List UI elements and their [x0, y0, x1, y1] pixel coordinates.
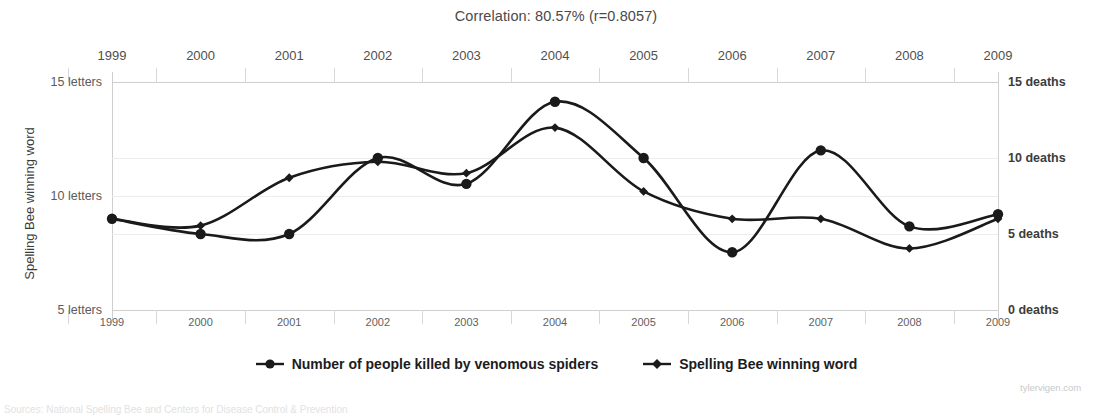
y-tick-label-left: 10 letters [6, 189, 102, 203]
x-tick-label-bottom: 2004 [543, 316, 567, 328]
x-tick-label-top: 1999 [98, 48, 127, 63]
x-tick [688, 68, 689, 82]
data-point-circle[interactable] [904, 221, 914, 231]
x-tick [245, 68, 246, 82]
x-tick [777, 68, 778, 82]
source-note: Sources: National Spelling Bee and Cente… [4, 404, 348, 415]
y-axis-left-title: Spelling Bee winning word [22, 89, 37, 319]
watermark: tylervigen.com [1020, 382, 1081, 393]
plot-area [112, 82, 998, 310]
data-point-diamond[interactable] [551, 123, 560, 132]
x-tick-label-top: 2004 [541, 48, 570, 63]
data-point-circle[interactable] [284, 229, 294, 239]
x-tick-label-bottom: 2001 [277, 316, 301, 328]
data-point-circle[interactable] [461, 179, 471, 189]
legend-item[interactable]: Number of people killed by venomous spid… [255, 356, 599, 372]
chart-legend: Number of people killed by venomous spid… [0, 356, 1112, 372]
x-tick [511, 310, 512, 324]
data-point-circle[interactable] [638, 153, 648, 163]
x-tick-label-top: 2003 [452, 48, 481, 63]
data-point-diamond[interactable] [728, 214, 737, 223]
x-tick-label-bottom: 1999 [100, 316, 124, 328]
legend-label: Spelling Bee winning word [679, 356, 857, 372]
data-point-diamond[interactable] [196, 221, 205, 230]
x-tick-label-top: 2000 [186, 48, 215, 63]
x-tick-label-top: 2007 [806, 48, 835, 63]
data-point-diamond[interactable] [285, 173, 294, 182]
x-tick [245, 310, 246, 324]
series-line-2 [112, 127, 998, 248]
x-tick [334, 310, 335, 324]
x-tick-label-bottom: 2008 [897, 316, 921, 328]
y-tick-label-left: 15 letters [6, 75, 102, 89]
x-tick-label-top: 2009 [984, 48, 1013, 63]
axis-line-right [998, 72, 999, 320]
x-tick [954, 68, 955, 82]
legend-diamond-icon [642, 357, 672, 371]
legend-item[interactable]: Spelling Bee winning word [642, 356, 857, 372]
x-tick [954, 310, 955, 324]
x-tick-label-top: 2008 [895, 48, 924, 63]
x-tick [599, 68, 600, 82]
x-tick-label-bottom: 2000 [188, 316, 212, 328]
data-point-circle[interactable] [195, 229, 205, 239]
x-tick [156, 310, 157, 324]
legend-circle-icon [255, 357, 285, 371]
legend-label: Number of people killed by venomous spid… [292, 356, 599, 372]
x-tick [777, 310, 778, 324]
data-point-diamond[interactable] [816, 214, 825, 223]
data-point-diamond[interactable] [905, 244, 914, 253]
x-tick [156, 68, 157, 82]
y-tick-label-right: 0 deaths [1008, 303, 1104, 317]
x-tick-label-bottom: 2007 [809, 316, 833, 328]
y-tick-label-right: 15 deaths [1008, 75, 1104, 89]
x-tick-label-top: 2005 [629, 48, 658, 63]
x-tick-label-top: 2001 [275, 48, 304, 63]
x-tick [334, 68, 335, 82]
x-tick [422, 310, 423, 324]
x-tick [599, 310, 600, 324]
chart-title: Correlation: 80.57% (r=0.8057) [0, 8, 1112, 24]
x-tick-label-bottom: 2009 [986, 316, 1010, 328]
data-point-circle[interactable] [816, 145, 826, 155]
y-tick-label-right: 5 deaths [1008, 227, 1104, 241]
x-tick-label-bottom: 2003 [454, 316, 478, 328]
x-tick [511, 68, 512, 82]
data-point-circle[interactable] [727, 247, 737, 257]
x-tick-label-top: 2006 [718, 48, 747, 63]
correlation-chart: Correlation: 80.57% (r=0.8057) 15 letter… [0, 0, 1112, 415]
x-tick-label-bottom: 2002 [366, 316, 390, 328]
y-tick-label-left: 5 letters [6, 303, 102, 317]
series-lines [112, 82, 998, 310]
x-tick-label-bottom: 2006 [720, 316, 744, 328]
x-tick-label-top: 2002 [363, 48, 392, 63]
x-tick [422, 68, 423, 82]
x-tick [865, 68, 866, 82]
x-tick [865, 310, 866, 324]
y-tick-label-right: 10 deaths [1008, 151, 1104, 165]
x-tick-label-bottom: 2005 [631, 316, 655, 328]
data-point-circle[interactable] [550, 97, 560, 107]
x-tick [688, 310, 689, 324]
data-point-diamond[interactable] [462, 169, 471, 178]
